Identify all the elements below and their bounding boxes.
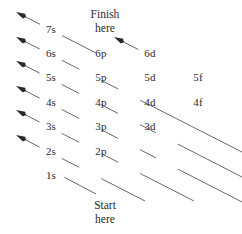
orbital-label-2p: 2p <box>95 145 107 157</box>
start-caption-line1: Start <box>94 199 117 211</box>
orbital-label-4p: 4p <box>95 96 107 108</box>
orbital-label-7s: 7s <box>46 23 56 35</box>
orbital-label-2s: 2s <box>46 145 56 157</box>
diagram-background <box>0 0 242 234</box>
orbital-label-5f: 5f <box>193 71 203 83</box>
orbital-label-6p: 6p <box>95 47 107 59</box>
finish-caption-line1: Finish <box>91 8 120 20</box>
orbital-label-6s: 6s <box>46 47 56 59</box>
orbital-label-3p: 3p <box>95 120 107 132</box>
orbital-label-3d: 3d <box>144 120 156 132</box>
orbital-label-4s: 4s <box>46 96 56 108</box>
aufbau-svg-canvas: 7s6s5s4s3s2s1s6p5p4p3p2p6d5d4d3d5f4f Fin… <box>0 0 242 234</box>
orbital-label-3s: 3s <box>46 120 56 132</box>
orbital-label-4f: 4f <box>193 96 203 108</box>
orbital-label-5d: 5d <box>144 71 156 83</box>
aufbau-diagram: 7s6s5s4s3s2s1s6p5p4p3p2p6d5d4d3d5f4f Fin… <box>0 0 242 234</box>
orbital-label-5p: 5p <box>95 71 107 83</box>
start-caption-line2: here <box>95 213 115 225</box>
finish-caption-line2: here <box>95 22 115 34</box>
orbital-label-4d: 4d <box>144 96 156 108</box>
orbital-label-6d: 6d <box>144 47 156 59</box>
orbital-label-1s: 1s <box>46 169 56 181</box>
orbital-label-5s: 5s <box>46 71 56 83</box>
